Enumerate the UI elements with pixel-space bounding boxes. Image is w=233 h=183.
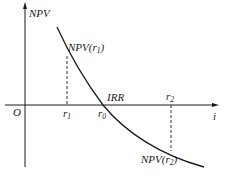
npv-irr-diagram: NPV i O NPV(r1) r1 r0 IRR r2 NPV(r2)	[0, 0, 233, 183]
y-axis-arrow-icon	[23, 2, 27, 9]
origin-label: O	[13, 106, 21, 118]
r1-label: r1	[63, 107, 71, 121]
r0-label: r0	[98, 107, 106, 121]
r2-label: r2	[166, 90, 174, 104]
x-axis-arrow-icon	[212, 103, 219, 107]
npv-r1-label: NPV(r1)	[67, 41, 104, 55]
x-axis-label: i	[213, 110, 216, 122]
y-axis-label: NPV	[28, 7, 51, 19]
irr-label: IRR	[106, 91, 124, 103]
